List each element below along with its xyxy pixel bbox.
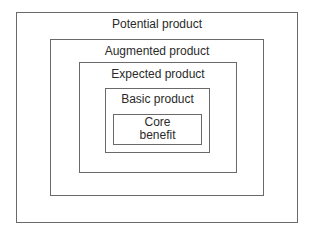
core-benefit-line2: benefit bbox=[114, 129, 201, 142]
potential-product-label: Potential product bbox=[17, 17, 297, 31]
core-benefit-box: Core benefit bbox=[113, 114, 202, 145]
core-benefit-label: Core benefit bbox=[114, 116, 201, 142]
basic-product-label: Basic product bbox=[106, 92, 209, 106]
augmented-product-label: Augmented product bbox=[51, 44, 263, 58]
expected-product-label: Expected product bbox=[80, 67, 236, 81]
